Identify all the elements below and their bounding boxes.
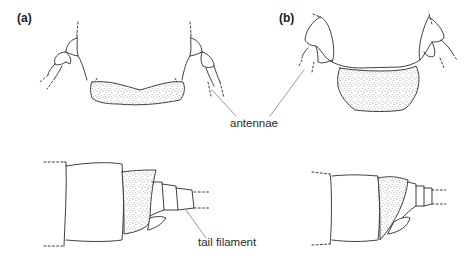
callout-antennae: antennae: [230, 117, 278, 129]
panel-b-tail: [312, 172, 446, 245]
shaded-plate-a: [91, 82, 185, 105]
diagram-canvas: [0, 0, 472, 259]
callout-tail-filament: tail filament: [198, 236, 256, 248]
panel-a-head: [40, 22, 224, 105]
panel-label-a: (a): [17, 11, 32, 25]
panel-b-head: [299, 14, 457, 112]
panel-label-b: (b): [279, 11, 294, 25]
antennae-leader-a: [212, 90, 236, 116]
panel-a-tail: [44, 162, 210, 246]
shaded-plate-b: [338, 66, 419, 112]
antennae-leader-b: [270, 70, 304, 116]
tail-filament-leader: [186, 210, 206, 238]
